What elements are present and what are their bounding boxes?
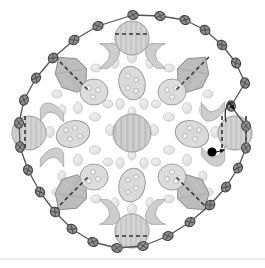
spotted-disc-lower-right <box>158 164 186 190</box>
vesicle <box>89 146 100 154</box>
vesicle <box>163 113 174 121</box>
black-dot-marker <box>207 147 216 156</box>
central-nucleus <box>113 114 151 152</box>
vesicle <box>116 158 124 169</box>
vesicle <box>52 90 62 98</box>
vesicle <box>127 203 136 215</box>
spotted-disc-upper-right <box>158 79 186 105</box>
vesicle <box>116 99 124 110</box>
vesicle <box>73 102 82 114</box>
vesicle <box>163 146 174 154</box>
vesicle <box>89 113 100 121</box>
boundary-node <box>14 118 24 129</box>
figure-root: Radially symmetric cell cross-section sc… <box>0 0 265 268</box>
vesicle <box>164 195 175 203</box>
vesicle <box>151 100 161 108</box>
vesicle <box>140 158 148 169</box>
vesicle <box>182 154 191 166</box>
vesicle <box>182 102 191 114</box>
vesicle <box>140 99 148 110</box>
spotted-disc-upper-left <box>80 79 108 105</box>
nucleus-top <box>115 21 149 55</box>
vesicle <box>203 90 213 98</box>
vesicle <box>151 158 161 166</box>
spotted-disc-lower-left <box>80 164 108 190</box>
cell-diagram-canvas <box>0 0 265 268</box>
vesicle <box>46 126 55 137</box>
vesicle <box>91 195 102 203</box>
vesicle <box>73 154 82 166</box>
boundary-node <box>242 121 251 131</box>
vesicle <box>103 158 113 166</box>
